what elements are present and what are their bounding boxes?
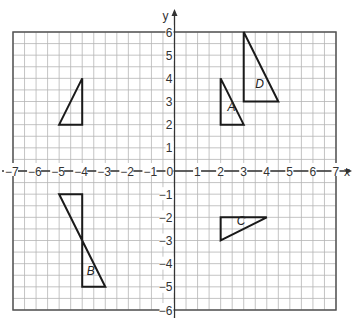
x-tick-label: −5 (51, 165, 65, 179)
y-tick-label: 3 (166, 95, 173, 109)
x-tick-label: 2 (217, 165, 224, 179)
x-tick-label: 0 (167, 165, 174, 179)
x-tick-label: −4 (74, 165, 88, 179)
x-tick-label: 3 (240, 165, 247, 179)
y-tick-label: −1 (159, 188, 173, 202)
x-tick-label: −6 (28, 165, 42, 179)
y-tick-label: −6 (159, 304, 173, 318)
y-tick-label: 5 (166, 49, 173, 63)
tick-labels: −7−6−5−4−3−2−101234567−6−5−4−3−2−1123456 (4, 25, 340, 318)
y-tick-label: −5 (159, 280, 173, 294)
y-axis-arrow-icon (172, 9, 178, 16)
x-axis-label: x (344, 165, 350, 179)
triangle-label-D: D (255, 77, 264, 91)
coordinate-grid: xy −7−6−5−4−3−2−101234567−6−5−4−3−2−1123… (0, 0, 356, 321)
triangle-label-B: B (87, 264, 95, 278)
y-tick-label: −4 (159, 257, 173, 271)
x-tick-label: 1 (194, 165, 201, 179)
y-tick-label: 6 (166, 26, 173, 40)
y-tick-label: −3 (159, 234, 173, 248)
y-tick-label: 1 (166, 141, 173, 155)
x-tick-label: 4 (263, 165, 270, 179)
y-tick-label: −2 (159, 211, 173, 225)
y-axis-label: y (163, 9, 169, 23)
x-tick-label: 7 (333, 165, 340, 179)
x-tick-label: −1 (143, 165, 157, 179)
x-tick-label: −2 (120, 165, 134, 179)
y-tick-label: 2 (166, 118, 173, 132)
x-tick-label: −7 (5, 165, 19, 179)
triangle-label-A: A (227, 100, 236, 114)
triangle-label-C: C (237, 214, 246, 228)
y-tick-label: 4 (166, 72, 173, 86)
x-tick-label: −3 (97, 165, 111, 179)
x-tick-label: 5 (286, 165, 293, 179)
x-tick-label: 6 (309, 165, 316, 179)
